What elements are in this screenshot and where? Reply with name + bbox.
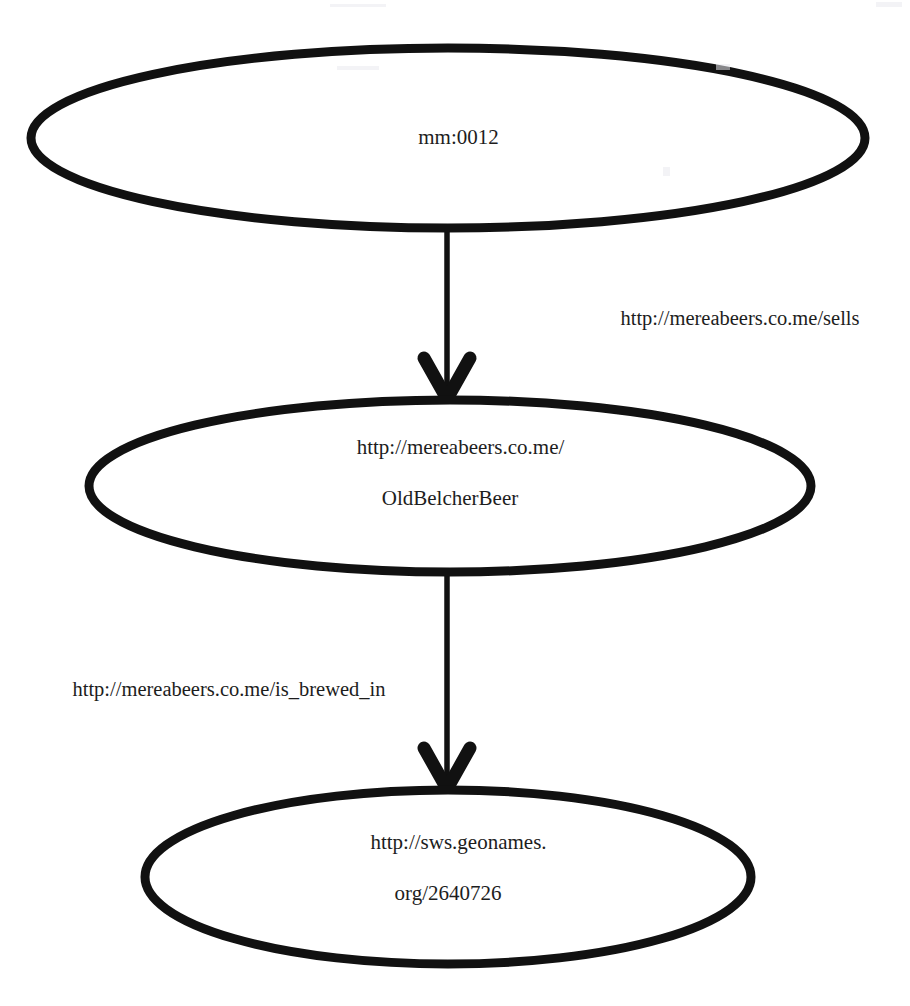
node-mm-0012-label: mm:0012 <box>397 99 499 176</box>
edge-sells <box>424 228 470 399</box>
graph-diagram: mm:0012 http://mereabeers.co.me/ OldBelc… <box>0 0 910 1006</box>
node-geonames-2640726-label: http://sws.geonames. org/2640726 <box>349 804 546 958</box>
edge-is-brewed-in <box>424 572 470 789</box>
edge-sells-label: http://mereabeers.co.me/sells <box>620 306 859 331</box>
node-geonames-2640726-label-line1: http://sws.geonames. <box>370 830 546 854</box>
node-mm-0012-label-line1: mm:0012 <box>418 124 499 148</box>
node-oldbelcherbeer-label-line1: http://mereabeers.co.me/ <box>357 435 565 459</box>
node-oldbelcherbeer-label-line2: OldBelcherBeer <box>336 486 565 512</box>
node-geonames-2640726-label-line2: org/2640726 <box>349 881 546 907</box>
edge-is-brewed-in-label: http://mereabeers.co.me/is_brewed_in <box>72 677 385 702</box>
node-oldbelcherbeer-label: http://mereabeers.co.me/ OldBelcherBeer <box>336 409 565 563</box>
